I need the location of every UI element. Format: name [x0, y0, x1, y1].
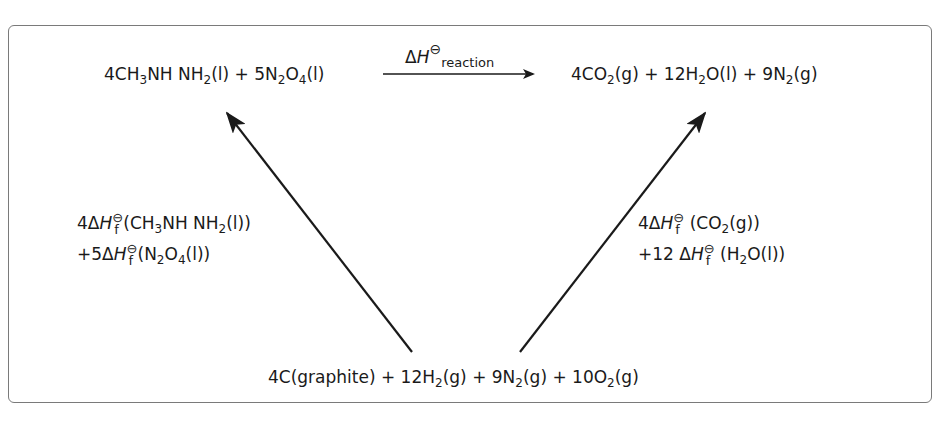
species-part: O [165, 244, 178, 264]
formation-subscript: f [114, 222, 119, 237]
products-part: (g) + 12H [615, 64, 699, 84]
coefficient: 4Δ [638, 213, 660, 233]
coefficient: 4Δ [77, 213, 99, 233]
right-formation-label-line2: +12 ΔH⊖f (H2O(l)) [638, 244, 785, 267]
elements-part: (g) [615, 367, 639, 387]
standard-formation-symbol: ⊖f [112, 214, 123, 231]
left-formation-label-line2: +5ΔH⊖f(N2O4(l)) [77, 244, 210, 267]
coefficient: +5Δ [77, 244, 114, 264]
enthalpy-symbol: H [99, 213, 112, 233]
species-part: (N [138, 244, 157, 264]
enthalpy-symbol: H [114, 244, 127, 264]
coefficient: +12 Δ [638, 244, 691, 264]
products-part: (g) [793, 64, 817, 84]
species-part: (CO [684, 213, 721, 233]
elements-subscript: 2 [607, 376, 615, 390]
enthalpy-symbol: H [691, 244, 704, 264]
reactants-subscript: 3 [139, 73, 147, 87]
elements-part: (g) + 10O [523, 367, 607, 387]
products-equation: 4CO2(g) + 12H2O(l) + 9N2(g) [571, 66, 818, 83]
standard-state-symbol: ⊖ [429, 41, 441, 57]
species-subscript: 2 [157, 253, 165, 267]
reaction-enthalpy-label: ΔH⊖reaction [405, 47, 494, 67]
elements-part: (g) + 9N [443, 367, 516, 387]
elements-part: 4C(graphite) + 12H [268, 367, 435, 387]
reactants-part: NH NH [147, 64, 203, 84]
products-subscript: 2 [607, 73, 615, 87]
reactants-part: O [285, 64, 298, 84]
enthalpy-symbol: H [417, 47, 430, 67]
elements-subscript: 2 [435, 376, 443, 390]
species-part: NH NH [162, 213, 218, 233]
products-part: 4CO [571, 64, 607, 84]
standard-formation-symbol: ⊖f [127, 245, 138, 262]
elements-subscript: 2 [515, 376, 523, 390]
products-subscript: 2 [698, 73, 706, 87]
reaction-subscript: reaction [441, 55, 494, 70]
right-formation-label-line1: 4ΔH⊖f (CO2(g)) [638, 213, 760, 236]
reactants-part: 4CH [104, 64, 139, 84]
enthalpy-symbol: H [660, 213, 673, 233]
species-part: O(l)) [747, 244, 785, 264]
elements-equation: 4C(graphite) + 12H2(g) + 9N2(g) + 10O2(g… [268, 369, 639, 386]
standard-formation-symbol: ⊖f [673, 214, 684, 231]
species-part: (l)) [226, 213, 251, 233]
reactants-part: (l) + 5N [211, 64, 278, 84]
reactants-equation: 4CH3NH NH2(l) + 5N2O4(l) [104, 66, 324, 83]
species-part: (H [715, 244, 740, 264]
species-part: (l)) [186, 244, 211, 264]
products-part: O(l) + 9N [706, 64, 786, 84]
left-formation-label-line1: 4ΔH⊖f(CH3NH NH2(l)) [77, 213, 251, 236]
formation-subscript: f [129, 253, 134, 268]
species-part: (CH [123, 213, 154, 233]
formation-subscript: f [675, 222, 680, 237]
species-subscript: 4 [178, 253, 186, 267]
standard-formation-symbol: ⊖f [704, 245, 715, 262]
formation-subscript: f [706, 253, 711, 268]
delta-symbol: Δ [405, 47, 417, 67]
reactants-part: (l) [306, 64, 324, 84]
species-part: (g)) [729, 213, 760, 233]
left-formation-arrow [227, 113, 412, 352]
